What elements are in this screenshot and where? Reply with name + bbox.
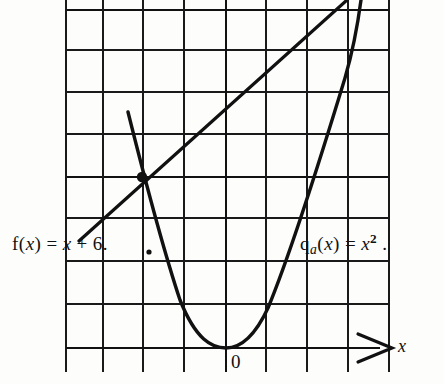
grid-vertical-lines <box>66 0 389 372</box>
line-label-period: . <box>103 233 108 254</box>
origin-label: 0 <box>231 352 241 371</box>
parabola-label-name: q <box>300 233 310 254</box>
parabola-label-variable: x <box>324 233 333 254</box>
plot-canvas <box>0 0 444 384</box>
line-label-leader-dot-icon <box>146 249 151 254</box>
line-label-name: f <box>12 233 19 254</box>
line-label-close-paren: ) <box>35 233 42 254</box>
parabola-curve-qa <box>128 0 361 348</box>
line-label-open-paren: ( <box>19 233 26 254</box>
line-label-variable: x <box>26 233 35 254</box>
parabola-label-close-paren: ) <box>333 233 340 254</box>
parabola-label-exponent: 2 <box>370 231 377 246</box>
graph-figure: f(x)=x+6. qa(x)=x2. 0 x <box>0 0 444 384</box>
parabola-label-term-variable: x <box>361 233 370 254</box>
line-label-constant: 6 <box>93 233 103 254</box>
parabola-label-period: . <box>382 233 387 254</box>
line-label-term-variable: x <box>63 233 72 254</box>
parabola-label-equals: = <box>345 233 356 254</box>
line-label-plus: + <box>77 233 88 254</box>
parabola-function-label: qa(x)=x2. <box>300 232 388 257</box>
x-axis-label: x <box>398 337 406 355</box>
intersection-point-marker <box>137 172 147 182</box>
line-label-equals: = <box>46 233 57 254</box>
line-function-label: f(x)=x+6. <box>12 234 108 253</box>
